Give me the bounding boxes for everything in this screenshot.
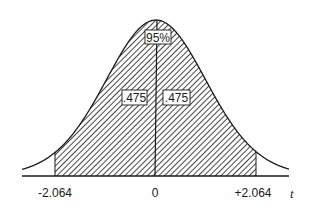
right-area-text: .475 xyxy=(165,91,189,105)
x-axis-variable: t xyxy=(290,186,294,201)
total-area-label: 95% xyxy=(145,30,171,45)
tick-label-right: +2.064 xyxy=(234,186,271,200)
left-area-text: .475 xyxy=(123,91,147,105)
left-area-label: .475 xyxy=(122,90,147,105)
total-area-text: 95% xyxy=(146,31,170,45)
tick-label-left: -2.064 xyxy=(38,186,72,200)
right-area-label: .475 xyxy=(163,90,190,105)
t-distribution-chart: 95% .475 .475 -2.064 0 +2.064 t xyxy=(0,0,311,214)
tick-label-center: 0 xyxy=(152,186,159,200)
